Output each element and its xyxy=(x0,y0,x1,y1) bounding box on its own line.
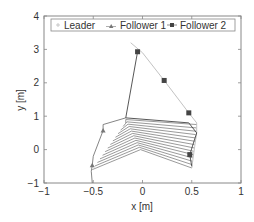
y-tick-label: −1 xyxy=(28,178,40,189)
legend-label-leader: Leader xyxy=(64,20,96,31)
y-tick-label: 2 xyxy=(33,77,39,88)
y-tick-label: 0 xyxy=(33,144,39,155)
legend-label-follower-1: Follower 1 xyxy=(120,20,167,31)
y-axis-label: y [m] xyxy=(15,89,26,111)
legend: Leader Follower 1 Follower 2 xyxy=(51,19,235,31)
x-axis-label: x [m] xyxy=(131,201,153,212)
trajectory-chart: −1−0.500.51−101234 Leader Follower 1 Fol… xyxy=(0,0,254,222)
legend-label-follower-2: Follower 2 xyxy=(180,20,227,31)
y-tick-label: 1 xyxy=(33,111,39,122)
square-marker-icon xyxy=(162,78,167,83)
x-tick-label: −1 xyxy=(38,186,50,197)
x-tick-label: −0.5 xyxy=(83,186,103,197)
y-tick-label: 4 xyxy=(33,11,39,22)
square-marker-icon xyxy=(135,49,140,54)
x-tick-label: 1 xyxy=(238,186,244,197)
x-tick-label: 0.5 xyxy=(185,186,199,197)
y-tick-label: 3 xyxy=(33,44,39,55)
plot-frame xyxy=(44,16,241,183)
square-marker-icon xyxy=(187,152,192,157)
square-marker-icon xyxy=(186,110,191,115)
x-tick-label: 0 xyxy=(140,186,146,197)
